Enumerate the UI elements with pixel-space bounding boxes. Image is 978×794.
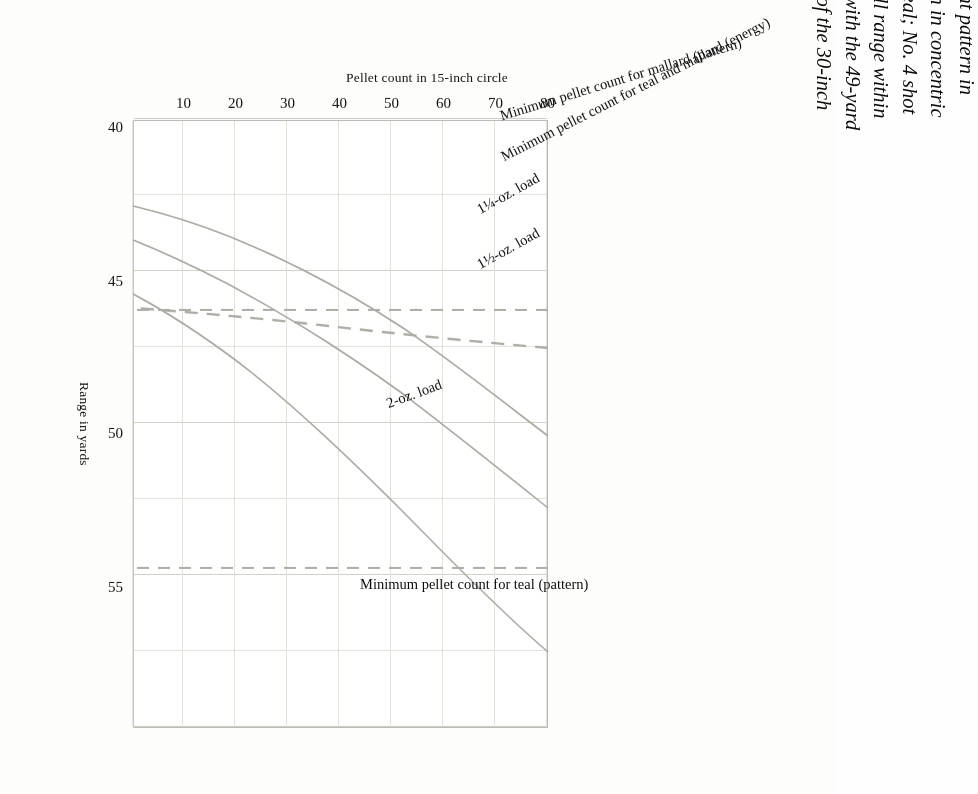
y-axis-title: Pellet count in 15-inch circle: [346, 70, 508, 86]
y-tick-50: 50: [384, 95, 399, 112]
y-tick-20: 20: [228, 95, 243, 112]
caption-line: 15-inch circle. Note that the pellet cou…: [896, 0, 925, 321]
caption-line: CHART 1. No. 4 shot on mallard and teal;…: [953, 0, 978, 321]
x-tick-50: 50: [108, 425, 123, 442]
caption-line: 15-inch pattern circle is nearly 55 yard…: [839, 0, 868, 321]
x-tick-40: 40: [108, 119, 123, 136]
curve-label-mallard-pattern: Minimum pellet count for mallard (patter…: [498, 34, 744, 124]
y-tick-10: 10: [176, 95, 191, 112]
caption-line: is not best for small ducks. Also note t…: [867, 0, 896, 321]
curve-energy-minimum: [133, 308, 548, 348]
chart-caption: CHART 1. No. 4 shot on mallard and teal;…: [782, 0, 978, 321]
chart-inner: Minimum pellet count for teal (pattern) …: [0, 48, 560, 748]
curve-label-mallard-pattern-text: Minimum pellet count for mallard (patter…: [498, 34, 743, 123]
x-axis-title: Range in yards: [76, 382, 92, 466]
y-tick-70: 70: [488, 95, 503, 112]
curve-2oz: [133, 294, 548, 652]
curve-label-teal-pattern-text: Minimum pellet count for teal (pattern): [360, 576, 588, 592]
curve-label-teal-pattern: Minimum pellet count for teal (pattern): [360, 576, 588, 593]
x-tick-55: 55: [108, 579, 123, 596]
caption-line: sure-kill range shown in Chart 2 based o…: [810, 0, 839, 321]
curve-1quarter-oz: [133, 206, 548, 436]
curve-1half-oz: [133, 240, 548, 508]
y-tick-60: 60: [436, 95, 451, 112]
chart-caption-block: CHART 1. No. 4 shot on mallard and teal;…: [731, 0, 978, 329]
y-tick-30: 30: [280, 95, 295, 112]
caption-line: pattern.: [782, 0, 811, 321]
y-tick-40: 40: [332, 95, 347, 112]
x-tick-45: 45: [108, 273, 123, 290]
caption-line: 30-inch circle at 40 yards, plotted on b…: [924, 0, 953, 321]
y-tick-80: 80: [540, 95, 555, 112]
chart-figure: Minimum pellet count for teal (pattern) …: [0, 48, 560, 748]
